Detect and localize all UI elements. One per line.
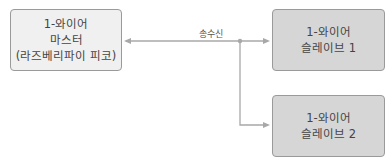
master-line-2: 마스터 xyxy=(50,32,83,48)
slave-1-line-1: 1-와이어 xyxy=(306,24,350,40)
slave-2-line-1: 1-와이어 xyxy=(306,110,350,126)
master-node: 1-와이어 마스터 (라즈베리파이 피코) xyxy=(10,9,122,71)
slave-1-node: 1-와이어 슬레이브 1 xyxy=(272,9,385,71)
arrow-right-icon xyxy=(263,38,270,44)
master-line-1: 1-와이어 xyxy=(44,16,88,32)
slave-2-line-2: 슬레이브 2 xyxy=(301,126,356,142)
master-line-3: (라즈베리파이 피코) xyxy=(16,48,117,64)
slave-2-node: 1-와이어 슬레이브 2 xyxy=(272,95,385,157)
arrow-right-icon xyxy=(263,122,270,128)
arrow-left-icon xyxy=(124,38,131,44)
slave-1-line-2: 슬레이브 1 xyxy=(301,40,356,56)
connection-label: 송수신 xyxy=(199,27,223,40)
